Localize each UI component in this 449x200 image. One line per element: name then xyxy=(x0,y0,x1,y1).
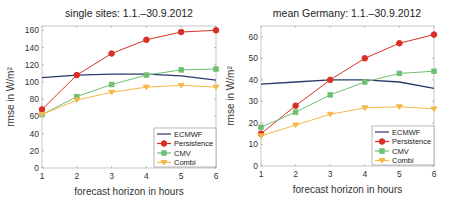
y-axis-label: rmse in W/m² xyxy=(5,67,16,127)
legend: ECMWFPersistenceCMVCombi xyxy=(154,128,216,167)
chart-canvas: single sites: 1.1.–30.9.2012020406080100… xyxy=(0,0,449,200)
x-axis-label: forecast horizon in hours xyxy=(293,184,403,195)
x-tick-label: 2 xyxy=(293,169,298,179)
y-axis-label: rmse in W/m² xyxy=(225,66,236,126)
y-tick-label: 20 xyxy=(249,118,259,128)
x-tick-label: 6 xyxy=(432,169,437,179)
chart-title: mean Germany: 1.1.–30.9.2012 xyxy=(273,7,421,19)
chart-title: single sites: 1.1.–30.9.2012 xyxy=(65,7,193,19)
legend-entry: CMV xyxy=(392,147,409,156)
legend-entry: ECMWF xyxy=(174,130,203,139)
chart-panel-1: single sites: 1.1.–30.9.2012020406080100… xyxy=(5,7,219,197)
y-tick-label: 80 xyxy=(30,94,40,104)
x-tick-label: 3 xyxy=(328,169,333,179)
x-tick-label: 3 xyxy=(109,171,114,181)
y-tick-label: 40 xyxy=(249,75,259,85)
x-tick-label: 4 xyxy=(362,169,367,179)
x-tick-label: 5 xyxy=(179,171,184,181)
y-tick-label: 0 xyxy=(253,161,258,171)
legend-entry: Persistence xyxy=(392,137,431,146)
y-tick-label: 100 xyxy=(25,77,39,87)
y-tick-label: 140 xyxy=(25,43,39,53)
legend-entry: Persistence xyxy=(174,139,213,148)
y-tick-label: 160 xyxy=(25,25,39,35)
legend-entry: CMV xyxy=(174,149,191,158)
y-tick-label: 0 xyxy=(34,163,39,173)
y-tick-label: 10 xyxy=(249,139,259,149)
x-tick-label: 6 xyxy=(214,171,219,181)
legend: ECMWFPersistenceCMVCombi xyxy=(372,126,434,165)
x-tick-label: 1 xyxy=(259,169,264,179)
x-tick-label: 5 xyxy=(397,169,402,179)
legend-entry: ECMWF xyxy=(392,128,421,137)
y-tick-label: 20 xyxy=(30,146,40,156)
y-tick-label: 60 xyxy=(30,111,40,121)
x-tick-label: 4 xyxy=(144,171,149,181)
chart-panel-2: mean Germany: 1.1.–30.9.2012010203040506… xyxy=(225,7,437,195)
x-tick-label: 1 xyxy=(40,171,45,181)
y-tick-label: 50 xyxy=(249,53,259,63)
y-tick-label: 30 xyxy=(249,96,259,106)
y-tick-label: 120 xyxy=(25,60,39,70)
x-tick-label: 2 xyxy=(74,171,79,181)
x-axis-label: forecast horizon in hours xyxy=(74,186,184,197)
y-tick-label: 40 xyxy=(30,129,40,139)
legend-entry: Combi xyxy=(392,156,414,165)
legend-entry: Combi xyxy=(174,158,196,167)
y-tick-label: 60 xyxy=(249,32,259,42)
